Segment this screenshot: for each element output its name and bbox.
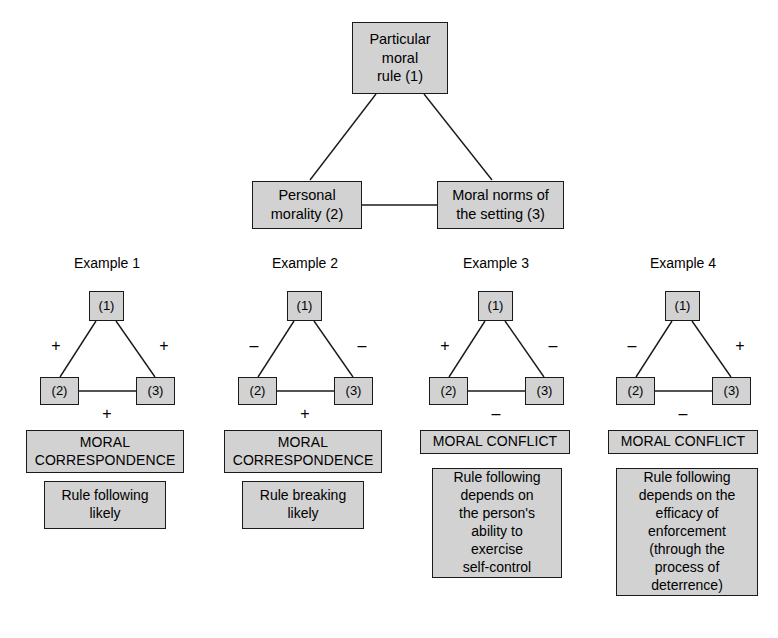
example-1-outcome-heading: MORAL CORRESPONDENCE [26,430,184,473]
example-2-sign-right: – [354,338,370,354]
example-1-node-2: (2) [40,377,79,405]
model-node-moral-norms-of-setting: Moral norms of the setting (3) [437,181,564,229]
example-2-node-1: (1) [287,291,322,321]
ex4-edge-right [692,321,731,377]
example-4-outcome-heading: MORAL CONFLICT [608,430,758,454]
edge-top-to-right [424,94,492,180]
ex1-edge-right [116,321,155,377]
example-1-node-3: (3) [136,377,175,405]
ex2-edge-right [314,321,353,377]
example-2-outcome-detail: Rule breaking likely [242,481,364,529]
ex2-edge-left [258,321,294,377]
example-3-node-3: (3) [525,377,564,405]
example-2-outcome-heading: MORAL CORRESPONDENCE [224,430,382,473]
example-1-title: Example 1 [47,255,167,271]
example-3-node-1: (1) [478,291,513,321]
ex4-edge-left [636,321,672,377]
example-1-sign-bottom: + [99,406,115,422]
example-1-outcome-detail: Rule following likely [44,481,166,529]
diagram-canvas: Particular moral rule (1) Personal moral… [0,0,778,638]
example-1-sign-left: + [48,338,64,354]
example-4-sign-bottom: – [675,406,691,422]
model-node-personal-morality: Personal morality (2) [252,181,362,229]
example-3-sign-bottom: – [488,406,504,422]
example-3-title: Example 3 [436,255,556,271]
ex3-edge-right [505,321,544,377]
example-2-sign-left: – [246,338,262,354]
example-2-node-2: (2) [238,377,277,405]
example-4-node-2: (2) [616,377,655,405]
example-3-outcome-detail: Rule following depends on the person's a… [432,468,562,578]
example-4-sign-left: – [624,338,640,354]
example-1-sign-right: + [156,338,172,354]
example-3-sign-left: + [437,338,453,354]
example-3-node-2: (2) [429,377,468,405]
example-4-node-1: (1) [665,291,700,321]
example-4-title: Example 4 [623,255,743,271]
example-2-title: Example 2 [245,255,365,271]
model-node-particular-moral-rule: Particular moral rule (1) [352,22,448,94]
example-2-sign-bottom: + [297,406,313,422]
example-3-sign-right: – [545,338,561,354]
example-1-node-1: (1) [89,291,124,321]
example-2-node-3: (3) [334,377,373,405]
example-4-node-3: (3) [712,377,751,405]
example-4-outcome-detail: Rule following depends on the efficacy o… [616,468,758,596]
edge-top-to-left [310,94,376,180]
ex1-edge-left [60,321,96,377]
example-4-sign-right: + [732,338,748,354]
example-3-outcome-heading: MORAL CONFLICT [420,430,570,454]
ex3-edge-left [449,321,485,377]
